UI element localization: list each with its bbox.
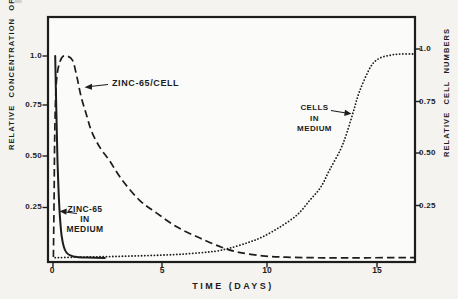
annotation-line: MEDIUM <box>293 124 336 135</box>
xtick-label-0: 0 <box>41 265 63 275</box>
annotation-line: ZINC-65 <box>58 204 112 214</box>
right-ytick-label-0.75: 0.75 <box>419 97 446 106</box>
annotation-line: CELLS <box>293 103 336 114</box>
left-ytick-label-0.75: 0.75 <box>15 100 42 109</box>
annotation-cells-in-medium: CELLS IN MEDIUM <box>293 103 336 135</box>
annotation-line: MEDIUM <box>58 224 112 234</box>
right-ytick-label-0.50: 0.50 <box>419 148 446 157</box>
left-ytick-label-1.0: 1.0 <box>15 51 42 60</box>
x-axis-title: TIME (DAYS) <box>168 281 298 291</box>
plot-svg <box>0 0 458 299</box>
annotation-line: IN <box>58 214 112 224</box>
left-ytick-label-0.50: 0.50 <box>15 151 42 160</box>
scanned-line-chart-figure: RELATIVE CONCENTRATION OF ZINC-65 RELATI… <box>0 0 458 299</box>
left-ytick-label-0.25: 0.25 <box>15 202 42 211</box>
xtick-label-15: 15 <box>366 265 388 275</box>
xtick-label-10: 10 <box>256 265 278 275</box>
right-ytick-label-0.25: 0.25 <box>419 201 446 210</box>
annotation-line: IN <box>293 114 336 125</box>
right-ytick-label-1.0: 1.0 <box>419 44 446 53</box>
annotation-zinc65-per-cell: ZINC-65/CELL <box>112 78 179 88</box>
xtick-label-5: 5 <box>151 265 173 275</box>
annotation-zinc65-in-medium: ZINC-65 IN MEDIUM <box>58 204 112 234</box>
